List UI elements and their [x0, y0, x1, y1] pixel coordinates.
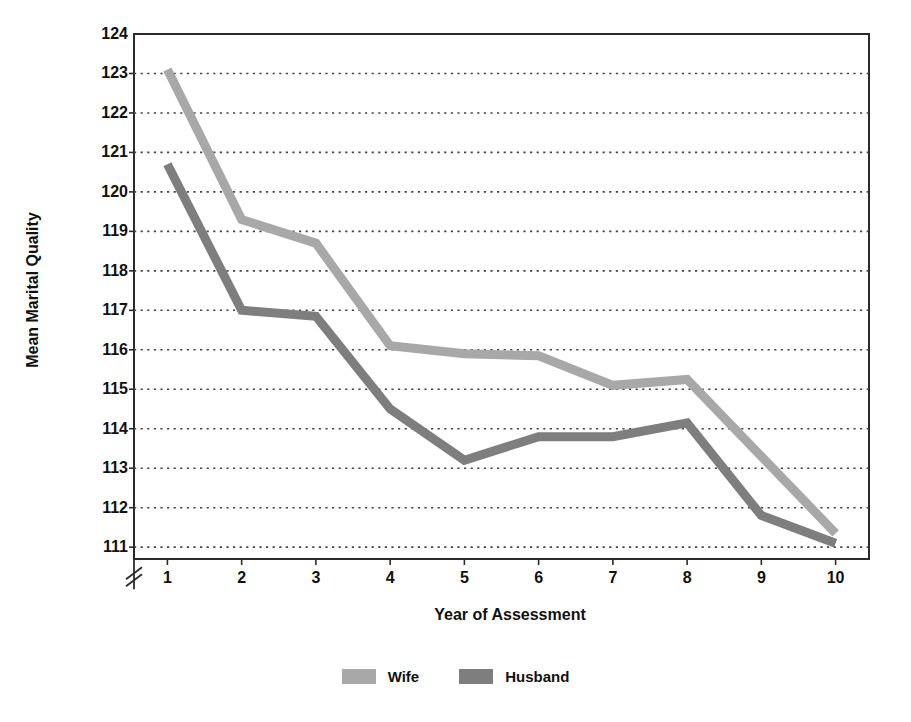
legend-item: Husband — [459, 668, 569, 685]
chart-legend: WifeHusband — [0, 668, 911, 685]
chart-container: Mean Marital Quality 1241231221211201191… — [0, 0, 911, 722]
legend-label: Husband — [505, 668, 569, 685]
x-tick-label: 1 — [147, 569, 187, 587]
legend-label: Wife — [388, 668, 420, 685]
x-tick-label: 2 — [222, 569, 262, 587]
x-tick-label: 8 — [667, 569, 707, 587]
legend-item: Wife — [342, 668, 420, 685]
x-tick-label: 5 — [444, 569, 484, 587]
x-tick-label: 9 — [741, 569, 781, 587]
x-tick-label: 3 — [296, 569, 336, 587]
x-axis-title: Year of Assessment — [130, 606, 890, 624]
legend-swatch-icon — [342, 669, 376, 684]
x-tick-label: 7 — [593, 569, 633, 587]
legend-swatch-icon — [459, 669, 493, 684]
x-tick-label: 6 — [519, 569, 559, 587]
x-tick-label: 10 — [816, 569, 856, 587]
x-tick-label: 4 — [370, 569, 410, 587]
